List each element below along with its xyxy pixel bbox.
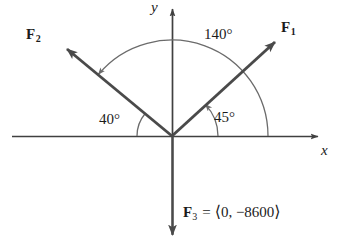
equation-lhs-main: F — [183, 204, 192, 220]
angle-140-label: 140° — [204, 27, 233, 42]
y-axis-label: y — [151, 0, 158, 15]
equation-components: 0, −8600 — [221, 204, 274, 220]
vector-f3-equation: F3=⟨0, −8600⟩ — [183, 204, 281, 222]
angle-40-label: 40° — [99, 112, 120, 127]
equation-close-angle-bracket: ⟩ — [274, 203, 280, 220]
equation-equals: = — [197, 204, 214, 220]
vector-f2-label-main: F — [26, 26, 35, 42]
vector-f1-label-main: F — [281, 19, 290, 35]
angle-45-label: 45° — [214, 110, 235, 125]
vector-f1-label: F1 — [281, 20, 296, 37]
vector-f2-label-subscript: 2 — [35, 33, 41, 44]
x-axis-label: x — [321, 143, 328, 158]
vector-f1-label-subscript: 1 — [290, 26, 296, 37]
vector-f2-label: F2 — [26, 27, 41, 44]
